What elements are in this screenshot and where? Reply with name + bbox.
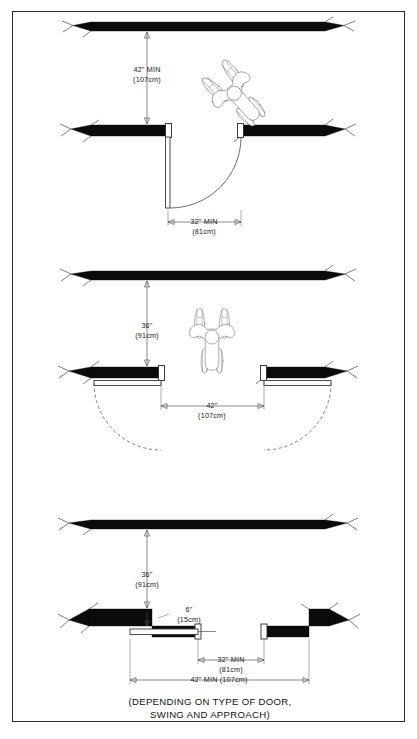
diagram-recessed-door-latch-approach: 36" (91cm) 6" (15cm) 32" MIN (81cm) [13, 12, 406, 723]
dim-label-42min-overall: 42" MIN (107cm) [190, 675, 247, 684]
dim-label-91cm-bottom: (91cm) [135, 580, 159, 589]
dimension-door-width-32-bottom: 32" MIN (81cm) [198, 639, 264, 674]
caption-line-2: SWING AND APPROACH) [150, 709, 270, 720]
recessed-wall-right [264, 603, 360, 637]
caption-line-1: (DEPENDING ON TYPE OF DOOR, [128, 696, 291, 707]
upper-wall-bottom [58, 514, 358, 535]
sheet-border: 42" MIN (107cm) 32" MIN (81cm) [12, 11, 405, 722]
closed-door-leaf [130, 629, 198, 635]
dimension-clear-depth-36-bottom: 36" (91cm) [135, 530, 159, 608]
dim-label-32min-bottom: 32" MIN [217, 655, 244, 664]
dim-label-81cm-bottom: (81cm) [219, 665, 243, 674]
dim-label-36-bottom: 36" [141, 570, 152, 579]
dim-label-6in: 6" [186, 605, 193, 614]
drawing-sheet: 42" MIN (107cm) 32" MIN (81cm) [0, 0, 417, 739]
dim-label-15cm: (15cm) [177, 615, 201, 624]
recess-jamb-right [261, 624, 267, 639]
dimension-latch-clearance-6: 6" (15cm) [145, 605, 201, 626]
